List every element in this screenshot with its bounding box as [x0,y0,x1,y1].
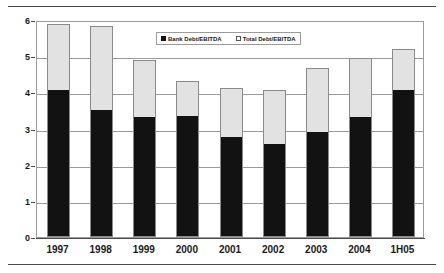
legend-entry-bank-debt: Bank Debt/EBITDA [161,36,222,42]
y-axis-tick-label: 0 [25,234,30,243]
bar-group [263,90,286,237]
bar-segment-total-debt [349,58,372,117]
bar-segment-total-debt [47,24,70,90]
bar-segment-total-debt [263,90,286,144]
x-axis-tick-label: 2001 [219,243,241,257]
x-axis-tick-label: 1999 [133,243,155,257]
y-axis-tick [31,57,35,58]
legend-label-total-debt: Total Debt/EBITDA [243,36,296,42]
bar-group [47,24,70,237]
bar-segment-total-debt [133,60,156,118]
bar-group [133,60,156,237]
y-axis-tick [31,93,35,94]
bar-segment-bank-debt [47,90,70,237]
figure: 0123456 19971998199920002001200220032004… [0,0,444,273]
bar-segment-bank-debt [306,132,329,237]
y-axis-tick [31,21,35,22]
y-axis-labels: 0123456 [0,21,30,238]
legend-label-bank-debt: Bank Debt/EBITDA [168,36,222,42]
y-axis-tick-label: 5 [25,53,30,62]
plot-area [36,21,424,238]
bar-segment-total-debt [306,68,329,132]
x-axis-tick-label: 2003 [305,243,327,257]
y-axis-tick-label: 2 [25,161,30,170]
y-axis-tick [31,238,35,239]
bar-segment-bank-debt [133,117,156,237]
legend-entry-total-debt: Total Debt/EBITDA [236,36,296,42]
bar-segment-bank-debt [349,117,372,237]
bar-segment-total-debt [392,49,415,90]
bar-segment-total-debt [90,26,113,110]
filled-square-icon [161,36,166,41]
chart-legend: Bank Debt/EBITDA Total Debt/EBITDA [156,32,301,45]
x-axis-labels: 199719981999200020012002200320041H05 [36,243,424,261]
y-axis-tick [31,166,35,167]
bar-group [306,68,329,237]
x-axis-tick-label: 1997 [46,243,68,257]
bar-group [90,26,113,237]
bar-segment-total-debt [220,88,243,138]
x-axis-tick-label: 2002 [262,243,284,257]
bar-segment-total-debt [176,81,199,116]
y-axis-tick [31,202,35,203]
bar-segment-bank-debt [220,137,243,237]
x-axis-tick-label: 2004 [348,243,370,257]
y-axis-tick-label: 3 [25,125,30,134]
bar-segment-bank-debt [263,144,286,237]
bar-group [220,88,243,237]
x-axis-tick-label: 2000 [176,243,198,257]
y-axis-tick-label: 6 [25,17,30,26]
stacked-bar-chart: 0123456 19971998199920002001200220032004… [0,0,444,273]
x-axis-tick-label: 1H05 [390,243,414,257]
bar-segment-bank-debt [176,116,199,237]
bar-segment-bank-debt [90,110,113,237]
bar-segment-bank-debt [392,90,415,237]
y-axis-tick [31,130,35,131]
x-axis-tick-label: 1998 [90,243,112,257]
bar-group [349,58,372,237]
y-axis-tick-label: 4 [25,89,30,98]
hollow-square-icon [236,36,241,41]
bar-group [176,81,199,237]
y-axis-tick-label: 1 [25,197,30,206]
x-axis-line [36,238,425,239]
bar-group [392,49,415,237]
